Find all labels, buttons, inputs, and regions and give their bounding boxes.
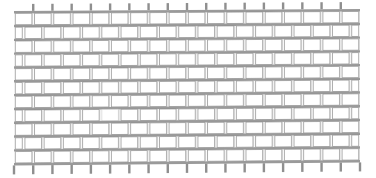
mortar-head-joint [359,149,360,160]
brick [25,82,42,94]
brick [15,151,32,163]
brick-wall-figure [0,0,376,178]
brick [304,67,321,78]
mortar-head-joint [42,82,43,93]
brick [304,12,321,23]
brick [256,136,273,147]
mortar-head-joint [224,67,225,78]
mortar-head-joint [234,53,235,64]
brick [92,13,109,25]
brick [217,53,234,64]
brick [54,13,71,25]
brick [169,68,186,79]
mortar-head-joint [282,94,283,105]
mortar-head-joint [263,39,264,50]
brick [44,55,61,67]
brick [15,96,32,108]
mortar-head-joint [70,13,71,24]
brick-wall-drawing [0,0,376,178]
brick [188,12,205,23]
brick [179,81,196,93]
mortar-head-joint [109,123,110,134]
brick [15,138,22,149]
head-joint-stub-bottom [320,163,322,172]
brick [256,53,273,64]
mortar-head-joint [118,137,119,148]
mortar-head-joint [301,94,302,105]
brick [25,27,42,39]
mortar-head-joint [205,12,206,23]
mortar-head-joint [205,67,206,78]
brick [25,110,42,122]
brick-course [14,78,360,94]
mortar-head-joint [147,40,148,51]
head-joint-stub-top [90,4,92,11]
head-joint-stub-top [205,3,207,10]
brick [63,110,80,122]
mortar-head-joint [224,122,225,133]
brick [150,13,167,24]
mortar-head-joint [311,25,312,36]
brick [159,54,176,65]
mortar-head-joint [311,80,312,91]
mortar-head-joint [320,122,321,133]
brick [342,94,359,105]
mortar-head-joint [359,66,360,77]
brick [284,67,301,78]
brick [236,26,253,37]
brick [198,109,215,121]
brick [275,136,292,147]
mortar-head-joint [195,136,196,147]
head-joint-stub-bottom [340,163,342,172]
brick [236,108,253,119]
mortar-head-joint [291,108,292,119]
brick [63,27,80,39]
brick [284,94,301,105]
brick [284,39,301,50]
mortar-head-joint [272,81,273,92]
brick [265,94,282,105]
brick [169,95,186,107]
mortar-head-joint [282,122,283,133]
brick [35,68,52,80]
brick [102,27,119,38]
mortar-head-joint [215,81,216,92]
brick [111,151,128,163]
mortar-head-joint [320,39,321,50]
mortar-head-joint [349,53,350,64]
mortar-head-joint [349,108,350,119]
brick [73,96,90,108]
mortar-head-joint [263,94,264,105]
brick [227,95,244,106]
mortar-head-joint [186,150,187,161]
mortar-head-joint [70,96,71,107]
head-joint-stub-top [51,4,53,11]
mortar-head-joint [205,40,206,51]
brick [208,12,225,23]
brick [54,151,71,163]
brick-course [14,9,360,25]
brick [73,151,90,163]
brick [246,12,263,23]
brick [15,13,32,25]
brick [198,136,215,148]
brick-course [14,50,360,66]
mortar-head-joint [186,123,187,134]
brick [150,95,167,107]
brick [179,109,196,121]
mortar-head-joint [157,81,158,92]
brick [35,13,52,25]
brick [140,81,157,93]
mortar-head-joint [70,41,71,52]
mortar-head-joint [118,27,119,38]
brick [265,149,282,160]
mortar-head-joint [157,137,158,148]
mortar-head-joint [176,136,177,147]
mortar-head-joint [32,13,33,24]
mortar-head-joint [205,95,206,106]
brick [131,150,148,162]
mortar-head-joint [70,68,71,79]
mortar-head-joint [51,124,52,135]
brick [150,150,167,162]
brick [121,109,138,121]
